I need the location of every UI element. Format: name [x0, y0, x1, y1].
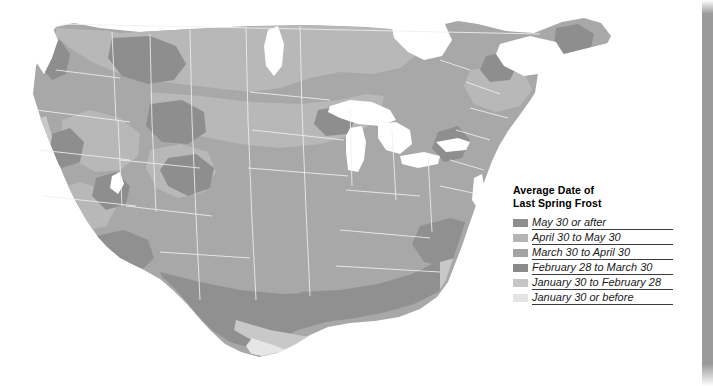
page-edge-bar — [702, 0, 713, 386]
frost-date-map-page: Average Date of Last Spring Frost May 30… — [0, 0, 713, 386]
legend-swatch-may30-or-after — [513, 219, 528, 227]
legend-item: March 30 to April 30 — [513, 245, 673, 260]
legend-item: January 30 or before — [513, 290, 673, 305]
legend-label-january30-to-february28: January 30 to February 28 — [532, 276, 673, 290]
legend-swatch-january30-or-before — [513, 294, 528, 302]
legend-swatch-march30-to-april30 — [513, 249, 528, 257]
legend-item: April 30 to May 30 — [513, 230, 673, 245]
legend-label-march30-to-april30: March 30 to April 30 — [532, 246, 673, 260]
zone-jan30-feb28-socal — [56, 232, 92, 270]
legend-label-january30-or-before: January 30 or before — [532, 291, 673, 305]
legend-label-may30-or-after: May 30 or after — [532, 216, 673, 230]
legend-title: Average Date of Last Spring Frost — [513, 184, 673, 209]
legend-swatch-january30-to-february28 — [513, 279, 528, 287]
legend-label-april30-to-may30: April 30 to May 30 — [532, 231, 673, 245]
edge-bar-fade-bottom — [702, 364, 713, 386]
zone-jan30-feb28-florida — [438, 256, 482, 332]
edge-bar-fade-top — [702, 0, 713, 14]
legend-swatch-april30-to-may30 — [513, 234, 528, 242]
legend-swatch-february28-to-march30 — [513, 264, 528, 272]
zone-jan30-feb28-pac-coast — [30, 116, 52, 208]
legend-label-february28-to-march30: February 28 to March 30 — [532, 261, 673, 275]
legend-item: February 28 to March 30 — [513, 260, 673, 275]
legend-item: May 30 or after — [513, 215, 673, 230]
map-legend: Average Date of Last Spring Frost May 30… — [513, 184, 673, 305]
legend-item: January 30 to February 28 — [513, 275, 673, 290]
